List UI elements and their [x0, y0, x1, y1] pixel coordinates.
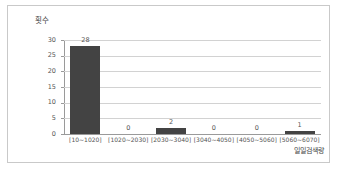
bar-value-label: 28 [64, 37, 107, 44]
chart-frame: 횟수 302520151050 2802001 [10~1020][1020~2… [7, 5, 330, 163]
plot-area: 2802001 [64, 40, 321, 134]
bar[interactable] [70, 46, 100, 134]
bar-value-label: 0 [107, 125, 150, 132]
gridline [64, 103, 321, 104]
y-tick-label: 5 [8, 115, 56, 122]
gridline [64, 87, 321, 88]
x-axis-title: 일일검색량 [294, 148, 324, 155]
x-tick-label: [10~1020] [64, 137, 107, 143]
bar-value-label: 0 [235, 125, 278, 132]
y-tick-label: 30 [8, 37, 56, 44]
x-axis-baseline [64, 134, 321, 135]
bar-value-label: 0 [193, 125, 236, 132]
gridline [64, 71, 321, 72]
bar[interactable] [156, 128, 186, 134]
y-tick-label: 15 [8, 84, 56, 91]
bar[interactable] [285, 131, 315, 134]
gridline [64, 56, 321, 57]
x-tick-label: [3040~4050] [193, 137, 236, 143]
y-tick-label: 0 [8, 131, 56, 138]
y-tick-label: 10 [8, 99, 56, 106]
bar-value-label: 1 [278, 122, 321, 129]
y-axis-title: 횟수 [35, 17, 49, 25]
gridline [64, 118, 321, 119]
x-tick-label: [2030~3040] [150, 137, 193, 143]
y-tick-label: 20 [8, 68, 56, 75]
x-tick-label: [4050~5060] [235, 137, 278, 143]
x-tick-label: [5060~6070] [278, 137, 321, 143]
y-tick-label: 25 [8, 52, 56, 59]
bar-value-label: 2 [150, 119, 193, 126]
x-tick-label: [1020~2030] [107, 137, 150, 143]
